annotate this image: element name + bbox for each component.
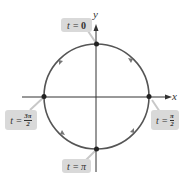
point-bottom (94, 147, 99, 152)
x-axis-arrow-icon (165, 95, 172, 100)
label-t-3pi-over-2: t = 3π2 (5, 110, 37, 130)
numerator: 3π (24, 113, 31, 120)
label-value: π (81, 161, 86, 172)
fraction: π2 (170, 113, 174, 128)
label-t-pi-over-2: t = π2 (151, 110, 179, 130)
denominator: 2 (26, 121, 30, 128)
direction-arrow-icon (59, 60, 63, 65)
y-axis-label: y (93, 8, 98, 20)
label-t-0: t = 0 (61, 18, 92, 32)
point-right (147, 94, 152, 99)
x-axis-label: x (172, 90, 177, 102)
label-prefix: t = (67, 161, 79, 172)
label-prefix: t = (67, 20, 79, 31)
point-top (94, 42, 99, 47)
direction-arrow-icon (130, 128, 134, 133)
denominator: 2 (170, 121, 174, 128)
y-axis-arrow-icon (94, 24, 99, 31)
label-t-pi: t = π (62, 159, 91, 173)
numerator: π (170, 113, 174, 120)
label-prefix: t = (156, 115, 168, 126)
point-left (42, 94, 47, 99)
fraction: 3π2 (24, 113, 31, 128)
label-prefix: t = (10, 115, 22, 126)
label-value: 0 (81, 20, 86, 31)
leader-left (30, 97, 44, 110)
